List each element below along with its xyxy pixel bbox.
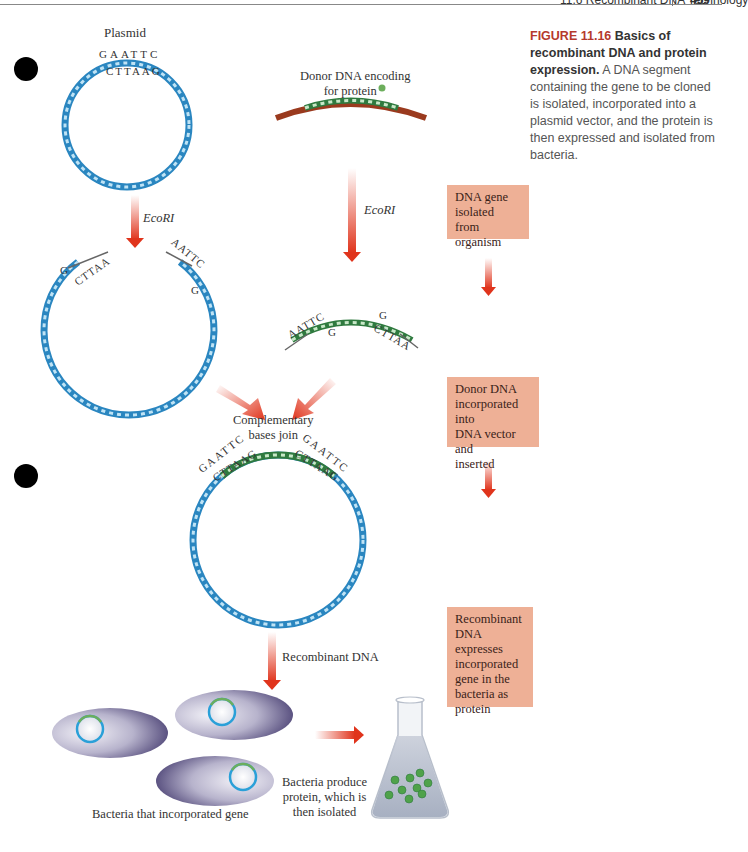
arrow-to-flask bbox=[315, 731, 355, 739]
step-3-line5: bacteria as bbox=[455, 687, 525, 702]
bacteria-label: Bacteria that incorporated gene bbox=[92, 807, 249, 822]
donor-label-line1: Donor DNA encoding bbox=[300, 69, 410, 84]
ecori-left-label: EcoRI bbox=[143, 211, 174, 226]
donor-label-line2: for protein bbox=[300, 84, 410, 99]
step-3-line1: Recombinant bbox=[455, 612, 525, 627]
step-1-line2: isolated from bbox=[455, 205, 521, 235]
plasmid-bottom-strand: CTTAAG bbox=[106, 64, 162, 79]
arrow-recombinant bbox=[268, 632, 276, 682]
cut-donor-right-top: G bbox=[379, 308, 387, 323]
step-2-line4: inserted bbox=[455, 457, 531, 472]
bacterium-2 bbox=[175, 690, 293, 740]
plasmid-circle bbox=[65, 63, 189, 187]
step-3-line3: incorporated bbox=[455, 657, 525, 672]
flask-icon bbox=[372, 697, 449, 818]
step-2-line3: DNA vector and bbox=[455, 427, 531, 457]
step-1-line3: organism bbox=[455, 235, 521, 250]
donor-dna-strand bbox=[276, 101, 426, 119]
arrow-ecori-right bbox=[348, 168, 356, 253]
step-3-line6: protein bbox=[455, 702, 525, 717]
produce-line3: then isolated bbox=[282, 805, 367, 820]
step-2-line2: incorporated into bbox=[455, 397, 531, 427]
bacterium-3 bbox=[156, 756, 274, 806]
cut-plasmid-right-bottom: G bbox=[191, 283, 199, 298]
ecori-right-label: EcoRI bbox=[364, 203, 395, 218]
donor-dna-label: Donor DNA encoding for protein bbox=[300, 69, 410, 99]
arrow-ecori-left bbox=[131, 195, 139, 240]
cut-donor-left-bottom: G bbox=[328, 325, 336, 340]
bacterium-1 bbox=[52, 708, 168, 758]
produce-line2: protein, which is bbox=[282, 790, 367, 805]
step-box-2: Donor DNA incorporated into DNA vector a… bbox=[447, 377, 539, 447]
cut-plasmid bbox=[44, 252, 214, 415]
step-2-line1: Donor DNA bbox=[455, 382, 531, 397]
arrow-step-1 bbox=[485, 258, 492, 288]
join-label-line1: Complementary bbox=[233, 413, 314, 428]
produce-line1: Bacteria produce bbox=[282, 775, 367, 790]
cut-plasmid-left-top: G bbox=[60, 263, 68, 278]
plasmid-top-strand: GAATTC bbox=[99, 47, 160, 62]
recombinant-dna-label: Recombinant DNA bbox=[282, 650, 379, 665]
step-box-1: DNA gene isolated from organism bbox=[447, 185, 529, 239]
produce-label: Bacteria produce protein, which is then … bbox=[282, 775, 367, 820]
step-3-line4: gene in the bbox=[455, 672, 525, 687]
step-1-line1: DNA gene bbox=[455, 190, 521, 205]
step-3-line2: DNA expresses bbox=[455, 627, 525, 657]
step-box-3: Recombinant DNA expresses incorporated g… bbox=[447, 607, 533, 707]
plasmid-label: Plasmid bbox=[104, 25, 146, 40]
